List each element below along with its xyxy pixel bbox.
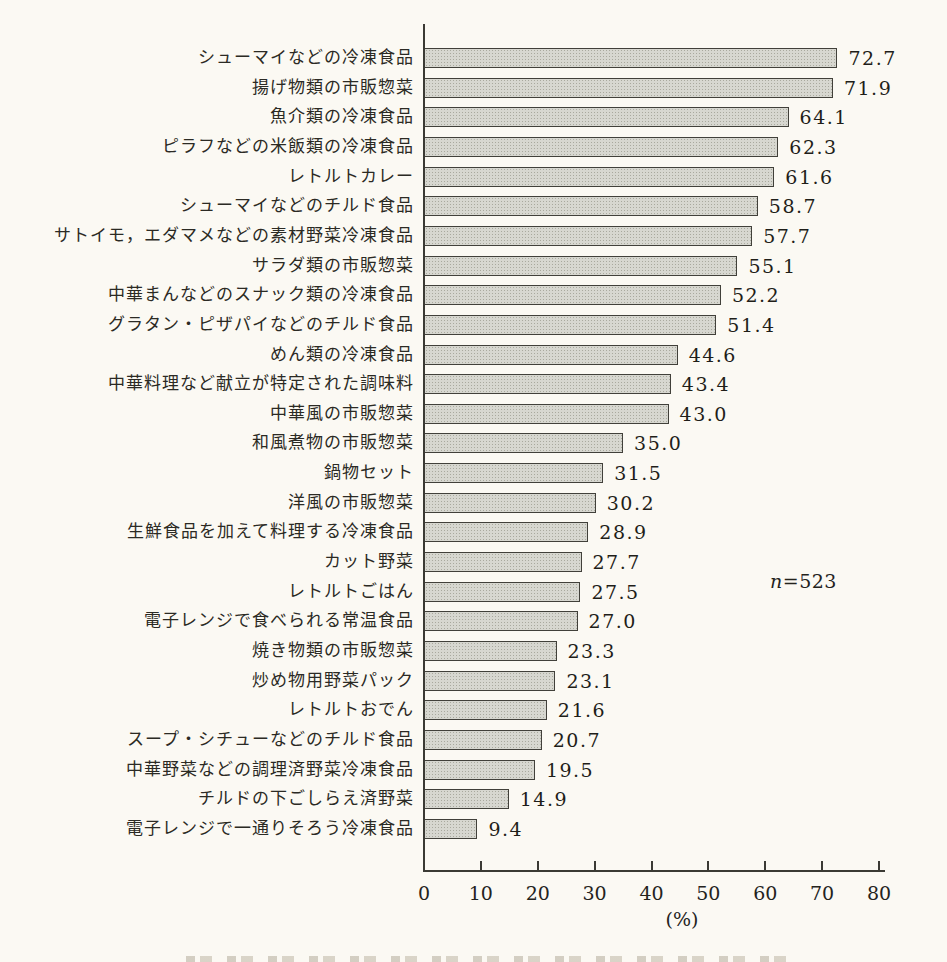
x-tick xyxy=(537,861,539,870)
x-tick-label: 0 xyxy=(402,882,446,904)
category-label: サトイモ，エダマメなどの素材野菜冷凍食品 xyxy=(0,225,414,247)
value-label: 43.4 xyxy=(682,373,730,395)
value-label: 44.6 xyxy=(689,344,737,366)
category-label: 和風煮物の市販惣菜 xyxy=(0,432,414,454)
value-label: 52.2 xyxy=(732,284,780,306)
value-label: 19.5 xyxy=(546,759,594,781)
n-value: =523 xyxy=(783,570,837,592)
sample-size-annotation: n=523 xyxy=(770,570,837,592)
category-label: 炒め物用野菜パック xyxy=(0,670,414,692)
value-label: 62.3 xyxy=(789,136,837,158)
scanned-bar-chart-page: シューマイなどの冷凍食品72.7揚げ物類の市販惣菜71.9魚介類の冷凍食品64.… xyxy=(0,0,947,962)
category-label: 生鮮食品を加えて料理する冷凍食品 xyxy=(0,521,414,543)
value-label: 72.7 xyxy=(848,47,896,69)
category-label: 電子レンジで一通りそろう冷凍食品 xyxy=(0,818,414,840)
bar xyxy=(424,552,582,572)
category-label: サラダ類の市販惣菜 xyxy=(0,255,414,277)
bar xyxy=(424,196,758,216)
category-label: 中華料理など献立が特定された調味料 xyxy=(0,373,414,395)
bar xyxy=(424,404,669,424)
value-label: 35.0 xyxy=(634,432,682,454)
bar xyxy=(424,611,578,631)
bar xyxy=(424,167,774,187)
value-label: 57.7 xyxy=(763,225,811,247)
bar xyxy=(424,48,837,68)
bar xyxy=(424,671,555,691)
bar xyxy=(424,463,603,483)
bar xyxy=(424,226,752,246)
bar xyxy=(424,522,588,542)
value-label: 30.2 xyxy=(607,492,655,514)
bar xyxy=(424,285,721,305)
value-label: 58.7 xyxy=(769,195,817,217)
bar xyxy=(424,345,678,365)
x-axis-unit-label: (%) xyxy=(650,908,714,930)
bar xyxy=(424,256,737,276)
value-label: 23.1 xyxy=(566,670,614,692)
category-label: レトルトごはん xyxy=(0,581,414,603)
value-label: 28.9 xyxy=(599,521,647,543)
x-tick xyxy=(423,861,425,870)
bar xyxy=(424,315,716,335)
category-label: レトルトおでん xyxy=(0,699,414,721)
x-tick xyxy=(707,861,709,870)
x-tick xyxy=(594,861,596,870)
value-label: 64.1 xyxy=(800,106,848,128)
bar xyxy=(424,730,542,750)
value-label: 61.6 xyxy=(785,166,833,188)
value-label: 14.9 xyxy=(520,788,568,810)
bar xyxy=(424,582,580,602)
value-label: 27.0 xyxy=(589,610,637,632)
x-tick-label: 40 xyxy=(630,882,674,904)
bar xyxy=(424,137,778,157)
value-label: 20.7 xyxy=(553,729,601,751)
x-axis-line xyxy=(423,870,885,872)
category-label: チルドの下ごしらえ済野菜 xyxy=(0,788,414,810)
value-label: 23.3 xyxy=(568,640,616,662)
value-label: 21.6 xyxy=(558,699,606,721)
category-label: シューマイなどのチルド食品 xyxy=(0,195,414,217)
bar xyxy=(424,641,557,661)
value-label: 27.5 xyxy=(591,581,639,603)
category-label: めん類の冷凍食品 xyxy=(0,344,414,366)
category-label: 焼き物類の市販惣菜 xyxy=(0,640,414,662)
category-label: 電子レンジで食べられる常温食品 xyxy=(0,610,414,632)
x-tick-label: 10 xyxy=(459,882,503,904)
x-tick-label: 30 xyxy=(573,882,617,904)
category-label: 中華野菜などの調理済野菜冷凍食品 xyxy=(0,759,414,781)
x-tick xyxy=(821,861,823,870)
category-label: シューマイなどの冷凍食品 xyxy=(0,47,414,69)
x-tick xyxy=(764,861,766,870)
value-label: 27.7 xyxy=(593,551,641,573)
category-label: カット野菜 xyxy=(0,551,414,573)
x-tick xyxy=(480,861,482,870)
bar xyxy=(424,374,671,394)
bar xyxy=(424,78,833,98)
x-tick-label: 70 xyxy=(800,882,844,904)
category-label: 鍋物セット xyxy=(0,462,414,484)
category-label: グラタン・ピザパイなどのチルド食品 xyxy=(0,314,414,336)
bar xyxy=(424,107,789,127)
x-tick xyxy=(651,861,653,870)
category-label: 洋風の市販惣菜 xyxy=(0,492,414,514)
x-tick-label: 60 xyxy=(743,882,787,904)
bar xyxy=(424,433,623,453)
cropped-caption-sliver xyxy=(186,956,786,962)
category-label: 中華まんなどのスナック類の冷凍食品 xyxy=(0,284,414,306)
value-label: 71.9 xyxy=(844,77,892,99)
category-label: スープ・シチューなどのチルド食品 xyxy=(0,729,414,751)
bar xyxy=(424,760,535,780)
category-label: ピラフなどの米飯類の冷凍食品 xyxy=(0,136,414,158)
value-label: 51.4 xyxy=(727,314,775,336)
value-label: 9.4 xyxy=(488,818,523,840)
x-tick-label: 20 xyxy=(516,882,560,904)
x-tick xyxy=(878,861,880,870)
bar xyxy=(424,789,509,809)
y-axis-line xyxy=(423,24,425,872)
value-label: 31.5 xyxy=(614,462,662,484)
bar xyxy=(424,819,477,839)
category-label: 揚げ物類の市販惣菜 xyxy=(0,77,414,99)
bar xyxy=(424,493,596,513)
bar xyxy=(424,700,547,720)
category-label: 魚介類の冷凍食品 xyxy=(0,106,414,128)
